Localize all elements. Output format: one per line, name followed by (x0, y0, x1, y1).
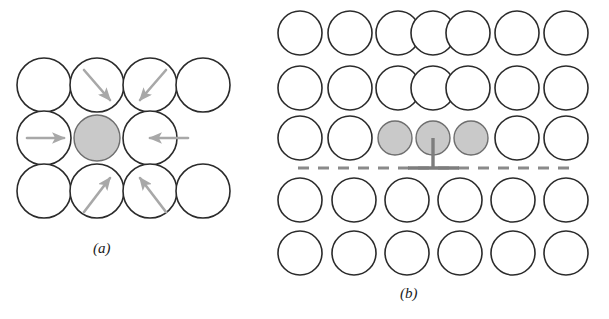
panel-b-atom-white-r3c0 (278, 178, 322, 222)
panel-b-caption: (b) (400, 285, 418, 302)
panel-b-atom-gray-r2c4 (454, 121, 488, 155)
panel-b-atom-white-r1c0 (278, 66, 322, 110)
panel-a-atom-white-r2c3 (176, 164, 230, 218)
panel-b-atom-white-r2c1 (328, 116, 372, 160)
crystal-defect-figure: (a) (b) (0, 0, 609, 319)
panel-b-atom-white-r2c0 (278, 116, 322, 160)
panel-a-atom-white-r2c1 (70, 164, 124, 218)
panel-b-atom-white-r4c4 (491, 231, 535, 275)
panel-b-atom-white-r3c1 (332, 178, 376, 222)
panel-a-atom-gray-r1c1 (74, 115, 120, 161)
panel-b-atom-white-r3c2 (385, 178, 429, 222)
panel-b-atom-gray-r2c2 (378, 121, 412, 155)
panel-b-atom-white-r0c4 (446, 11, 490, 55)
panel-b-atom-white-r0c1 (328, 11, 372, 55)
panel-b-atom-white-r1c5 (495, 66, 539, 110)
panel-b-atom-white-r3c4 (491, 178, 535, 222)
panel-b-atom-white-r1c6 (544, 66, 588, 110)
panel-b-atom-white-r2c5 (495, 116, 539, 160)
panel-a-atom-white-r0c2 (123, 58, 177, 112)
panel-b-atom-white-r4c1 (332, 231, 376, 275)
panel-b-atom-white-r0c6 (544, 11, 588, 55)
panel-b-atom-white-r0c0 (278, 11, 322, 55)
figure-canvas (0, 0, 609, 319)
panel-a-caption: (a) (93, 240, 111, 257)
panel-b-atom-white-r0c5 (495, 11, 539, 55)
panel-b-atom-white-r4c2 (385, 231, 429, 275)
panel-a-atom-white-r0c0 (17, 58, 71, 112)
panel-b-atom-white-r4c5 (544, 231, 588, 275)
panel-b-atom-white-r3c5 (544, 178, 588, 222)
panel-b-atom-white-r1c4 (446, 66, 490, 110)
panel-b-atom-white-r2c6 (544, 116, 588, 160)
panel-a-atom-white-r0c3 (176, 58, 230, 112)
panel-a-atom-white-r2c0 (17, 164, 71, 218)
panel-b-atom-white-r4c3 (438, 231, 482, 275)
panel-b-atom-white-r4c0 (278, 231, 322, 275)
panel-b-atom-white-r3c3 (438, 178, 482, 222)
panel-b-atom-white-r1c1 (328, 66, 372, 110)
